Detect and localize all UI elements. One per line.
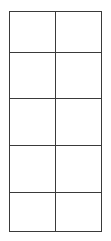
grid-cell [56, 12, 100, 52]
grid-cell [10, 193, 54, 231]
grid-cell [56, 53, 100, 97]
empty-grid-table [9, 11, 102, 232]
grid-cell [10, 12, 54, 52]
grid-cell [10, 146, 54, 191]
grid-cell [10, 99, 54, 144]
grid-cell [56, 193, 100, 231]
grid-cell [56, 99, 100, 144]
grid-cell [56, 146, 100, 191]
grid-cell [10, 53, 54, 97]
